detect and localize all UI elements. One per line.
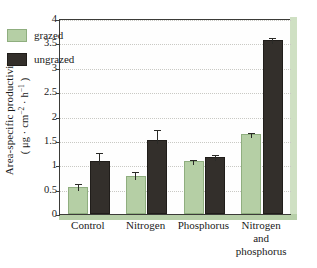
bar-grazed-phosphorus xyxy=(184,161,204,214)
x-axis-category-labels: ControlNitrogenPhosphorusNitrogenandphos… xyxy=(59,219,299,267)
plot-inner xyxy=(59,19,290,214)
gridline xyxy=(60,69,291,71)
y-axis-tick-label: 1.5 xyxy=(35,136,57,146)
plot-frame-accent-right xyxy=(290,17,297,220)
y-axis-tick-label: 0.5 xyxy=(35,185,57,195)
y-axis-tick-label: 4 xyxy=(35,14,57,24)
y-axis-tick-label: 0 xyxy=(35,209,57,219)
error-bar-cap xyxy=(269,38,276,39)
bar-chart-figure: Area-specific productivity ( μg · cm−2 ·… xyxy=(0,0,317,268)
error-bar-cap xyxy=(96,153,103,154)
legend-label-ungrazed: ungrazed xyxy=(34,53,74,65)
gridline xyxy=(60,93,291,95)
gridline xyxy=(60,118,291,120)
y-axis-tick-label: 2 xyxy=(35,112,57,122)
x-axis-label-line: and xyxy=(221,232,301,245)
plot-area xyxy=(59,17,299,217)
bar-ungrazed-nitrogen-and-phosphorus xyxy=(263,40,283,214)
y-axis-tick-label: 2.5 xyxy=(35,87,57,97)
y-axis-tickmark xyxy=(56,215,60,216)
error-bar xyxy=(99,153,100,165)
y-axis-tickmark xyxy=(56,166,60,167)
y-axis-tickmark xyxy=(56,93,60,94)
error-bar xyxy=(157,130,158,144)
x-axis-label-line: phosphorus xyxy=(221,245,301,258)
x-axis-label-nitrogen-and-phosphorus: Nitrogenandphosphorus xyxy=(221,219,301,258)
legend-label-grazed: grazed xyxy=(34,29,63,41)
error-bar-cap xyxy=(212,155,219,156)
gridline xyxy=(60,20,291,22)
error-bar-cap xyxy=(190,160,197,161)
y-axis-tickmark xyxy=(56,191,60,192)
y-axis-unit-exp-area: −2 xyxy=(16,107,25,115)
error-bar-cap xyxy=(132,172,139,173)
legend-swatch-ungrazed xyxy=(7,53,27,66)
legend-item-ungrazed: ungrazed xyxy=(7,49,74,69)
bar-ungrazed-nitrogen xyxy=(147,140,167,214)
legend-swatch-grazed xyxy=(7,29,27,42)
y-axis-title-line1: Area-specific productivity xyxy=(3,57,16,175)
error-bar-cap xyxy=(248,133,255,134)
bar-ungrazed-control xyxy=(90,161,110,214)
gridline xyxy=(60,44,291,46)
bar-grazed-nitrogen-and-phosphorus xyxy=(241,134,261,214)
bar-grazed-control xyxy=(68,187,88,214)
x-axis-line xyxy=(59,214,291,215)
error-bar-cap xyxy=(154,130,161,131)
legend-item-grazed: grazed xyxy=(7,25,74,45)
x-axis-label-line: Nitrogen xyxy=(221,219,301,232)
y-axis-unit-exp-time: −1 xyxy=(16,84,25,92)
legend: grazedungrazed xyxy=(7,25,74,73)
y-axis-title-line2: ( μg · cm−2 · h−1 ) xyxy=(15,57,31,175)
y-axis-tickmark xyxy=(56,20,60,21)
error-bar-cap xyxy=(75,184,82,185)
bar-grazed-nitrogen xyxy=(126,176,146,214)
y-axis-tickmark xyxy=(56,142,60,143)
y-axis-tickmark xyxy=(56,118,60,119)
y-axis-tick-label: 1 xyxy=(35,160,57,170)
bar-ungrazed-phosphorus xyxy=(205,157,225,214)
